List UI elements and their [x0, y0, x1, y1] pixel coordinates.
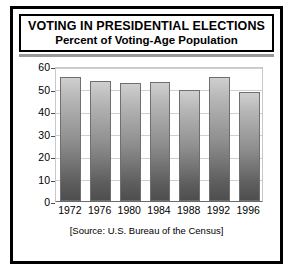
y-axis-tick [51, 91, 55, 92]
x-axis-tick-label: 1976 [88, 204, 111, 216]
bar [120, 83, 141, 201]
y-axis-tick [51, 181, 55, 182]
gridline [56, 68, 262, 69]
y-axis-tick-label: 10 [38, 174, 50, 186]
chart-title-box: VOTING IN PRESIDENTIAL ELECTIONS Percent… [19, 14, 274, 52]
x-axis-labels: 1972197619801984198819921996 [55, 204, 263, 220]
bar [90, 81, 111, 201]
x-axis-tick-label: 1996 [236, 204, 259, 216]
y-axis-tick-label: 20 [38, 151, 50, 163]
y-axis-tick [51, 158, 55, 159]
y-axis-labels: 0102030405060 [19, 67, 50, 202]
y-axis-tick-label: 60 [38, 61, 50, 73]
y-axis-tick [51, 136, 55, 137]
x-axis-tick-label: 1984 [147, 204, 170, 216]
chart-subtitle: Percent of Voting-Age Population [55, 34, 238, 47]
bar [150, 82, 171, 201]
x-axis-tick-label: 1972 [58, 204, 81, 216]
bar [209, 77, 230, 201]
bar [60, 77, 81, 201]
page-title: VOTING IN PRESIDENTIAL ELECTIONS [28, 19, 265, 33]
bar [239, 92, 260, 201]
source-note: [Source: U.S. Bureau of the Census] [13, 225, 280, 236]
header-divider [19, 54, 274, 57]
x-axis-tick-label: 1980 [118, 204, 141, 216]
y-axis-tick-label: 40 [38, 106, 50, 118]
y-axis-tick-label: 0 [44, 196, 50, 208]
x-axis-tick-label: 1988 [177, 204, 200, 216]
y-axis-tick-label: 50 [38, 84, 50, 96]
y-axis-tick [51, 113, 55, 114]
bar [179, 90, 200, 201]
axes-frame [55, 67, 263, 202]
chart-figure: VOTING IN PRESIDENTIAL ELECTIONS Percent… [10, 6, 283, 264]
y-axis-tick-label: 30 [38, 129, 50, 141]
y-axis-tick [51, 68, 55, 69]
x-axis-tick-label: 1992 [207, 204, 230, 216]
plot-area: 0102030405060 19721976198019841988199219… [19, 61, 274, 221]
